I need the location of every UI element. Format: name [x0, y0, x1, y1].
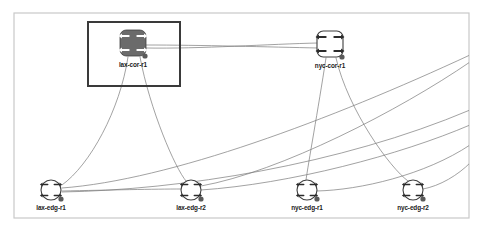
node-shape-circle[interactable]	[297, 180, 317, 200]
node-endpoint-dot[interactable]	[142, 53, 147, 58]
node-shape-circle[interactable]	[181, 180, 201, 200]
topology-node-lax-cor-r1[interactable]: lax-cor-r1	[119, 30, 148, 68]
node-shape-circle[interactable]	[41, 180, 61, 200]
node-shape-rounded-square[interactable]	[120, 30, 146, 56]
node-label-lax-edg-r1: lax-edg-r1	[36, 204, 66, 212]
node-endpoint-dot[interactable]	[314, 196, 319, 201]
node-label-lax-edg-r2: lax-edg-r2	[176, 204, 206, 212]
node-label-lax-cor-r1: lax-cor-r1	[119, 61, 148, 68]
node-label-nyc-cor-r1: nyc-cor-r1	[315, 62, 346, 70]
node-shape-rounded-square[interactable]	[317, 31, 343, 57]
node-endpoint-dot[interactable]	[198, 196, 203, 201]
node-endpoint-dot[interactable]	[58, 196, 63, 201]
topology-app: lax-cor-r1nyc-cor-r1lax-edg-r1lax-edg-r2…	[0, 0, 483, 230]
topology-canvas[interactable]: lax-cor-r1nyc-cor-r1lax-edg-r1lax-edg-r2…	[0, 0, 483, 230]
node-endpoint-dot[interactable]	[339, 54, 344, 59]
topology-node-nyc-cor-r1[interactable]: nyc-cor-r1	[315, 31, 346, 70]
canvas-background	[14, 13, 469, 218]
node-label-nyc-edg-r1: nyc-edg-r1	[291, 204, 323, 212]
node-shape-circle[interactable]	[403, 180, 423, 200]
node-endpoint-dot[interactable]	[420, 196, 425, 201]
node-label-nyc-edg-r2: nyc-edg-r2	[397, 204, 429, 212]
